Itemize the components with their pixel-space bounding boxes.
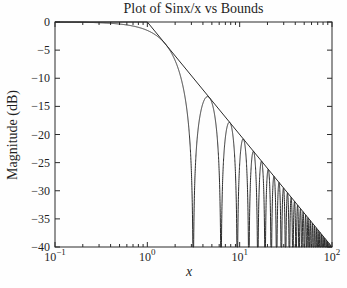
y-tick-label: −20 <box>31 128 50 140</box>
y-tick-label: −10 <box>31 72 50 84</box>
y-tick-label: −25 <box>31 156 50 168</box>
chart-title: Plot of Sinx/x vs Bounds <box>55 1 332 17</box>
series-sinc-magnitude <box>55 22 332 247</box>
x-tick-label: 100 <box>139 251 156 263</box>
x-tick-label: 101 <box>231 251 248 263</box>
figure: Plot of Sinx/x vs Bounds Magnitude (dB) … <box>0 0 347 288</box>
y-tick-label: 0 <box>44 16 50 28</box>
y-tick-label: −30 <box>31 185 50 197</box>
x-tick-label: 10−1 <box>44 251 66 263</box>
plot-canvas <box>0 0 347 288</box>
series-upper-bound-rolloff <box>147 22 332 247</box>
x-tick-label: 102 <box>324 251 341 263</box>
x-axis-label: x <box>186 264 192 280</box>
y-tick-label: −35 <box>31 213 50 225</box>
y-axis-label: Magnitude (dB) <box>5 90 21 180</box>
y-tick-label: −5 <box>37 44 50 56</box>
y-tick-label: −15 <box>31 100 50 112</box>
